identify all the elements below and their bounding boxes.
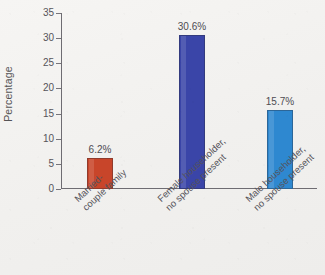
x-axis-category-label: Married-couple family xyxy=(72,158,128,213)
bar-chart-figure: Percentage 05101520253035 6.2%30.6%15.7%… xyxy=(0,0,325,275)
x-axis-category-line: Female householder, xyxy=(155,135,228,204)
x-axis-category-label: Female householder,no spouse present xyxy=(155,135,236,212)
x-axis-category-label: Male householder,no spouse present xyxy=(243,143,316,213)
x-axis-label-layer: Married-couple familyFemale householder,… xyxy=(0,0,325,275)
